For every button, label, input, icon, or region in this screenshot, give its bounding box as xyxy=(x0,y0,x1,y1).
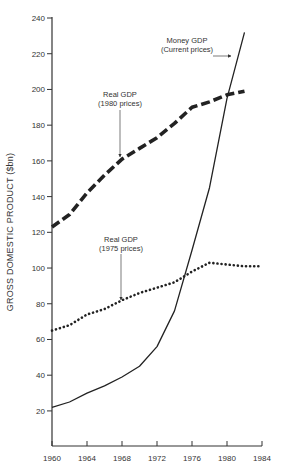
x-tick-label: 1976 xyxy=(183,454,201,463)
annotation-label: Real GDP xyxy=(104,235,138,244)
y-tick-label: 60 xyxy=(36,335,45,344)
x-axis: 1960196419681972197619801984 xyxy=(43,441,271,463)
y-tick-label: 200 xyxy=(32,85,46,94)
annotation-sublabel: (1975 prices) xyxy=(99,244,143,253)
y-tick-label: 100 xyxy=(32,264,46,273)
x-tick-label: 1972 xyxy=(148,454,166,463)
x-tick-label: 1980 xyxy=(218,454,236,463)
annotation-label: Money GDP xyxy=(167,36,208,45)
y-tick-label: 220 xyxy=(32,50,46,59)
annotation-label: Real GDP xyxy=(103,90,137,99)
y-axis: 20406080100120140160180200220240 xyxy=(32,14,52,446)
y-tick-label: 180 xyxy=(32,121,46,130)
x-tick-label: 1968 xyxy=(113,454,131,463)
x-tick-label: 1960 xyxy=(43,454,61,463)
series-line-dotted xyxy=(52,263,262,331)
annotation-sublabel: (Current prices) xyxy=(161,45,214,54)
annotation-sublabel: (1980 prices) xyxy=(98,99,142,108)
series-line-solid xyxy=(52,32,245,407)
y-tick-label: 40 xyxy=(36,371,45,380)
y-tick-label: 20 xyxy=(36,407,45,416)
y-tick-label: 140 xyxy=(32,193,46,202)
y-tick-label: 160 xyxy=(32,157,46,166)
y-axis-label: GROSS DOMESTIC PRODUCT ($bn) xyxy=(5,153,15,311)
chart-annotations: Money GDP(Current prices)Real GDP(1980 p… xyxy=(98,36,231,300)
gdp-line-chart: 20406080100120140160180200220240 1960196… xyxy=(0,0,283,473)
y-tick-label: 80 xyxy=(36,300,45,309)
y-tick-label: 240 xyxy=(32,14,46,23)
chart-series xyxy=(52,32,262,407)
y-tick-label: 120 xyxy=(32,228,46,237)
x-tick-label: 1984 xyxy=(253,454,271,463)
x-tick-label: 1964 xyxy=(78,454,96,463)
